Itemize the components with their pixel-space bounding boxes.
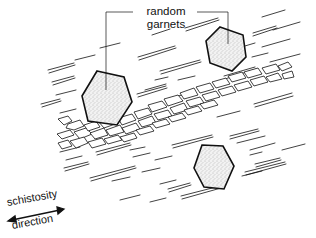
mica-foliation <box>41 10 305 202</box>
garnet-upper-right <box>206 27 246 71</box>
garnets-label-line1: random <box>137 5 195 18</box>
garnets-label: random garnets <box>137 5 195 31</box>
garnets-label-line2: garnets <box>137 18 195 31</box>
schist-diagram <box>0 0 316 238</box>
garnet-lower-right <box>194 145 234 189</box>
